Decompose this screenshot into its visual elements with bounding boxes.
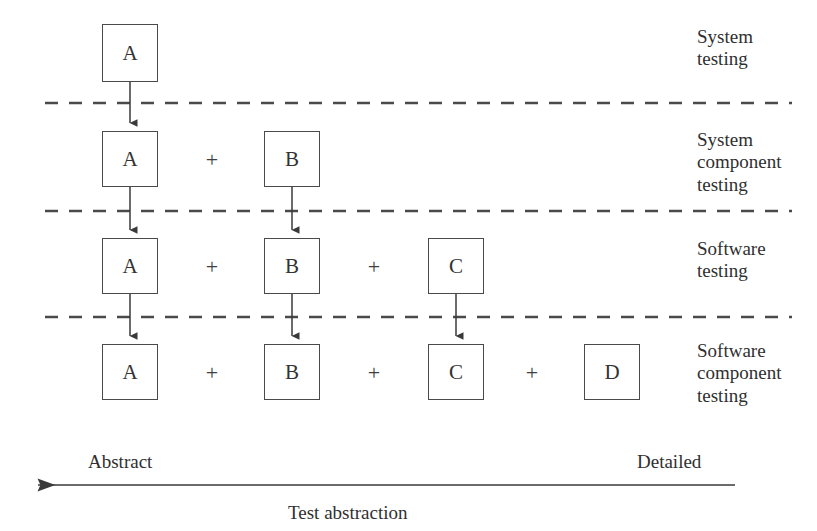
node-box-b-system-component-testing[interactable]: B (264, 131, 320, 187)
node-box-a-system-testing[interactable]: A (102, 24, 158, 82)
node-box-a-system-component-testing[interactable]: A (102, 131, 158, 187)
test-abstraction-diagram: A A + B A + B + C A + B + C + D System t… (0, 0, 817, 531)
node-box-label: B (285, 362, 299, 383)
node-box-label: C (449, 256, 463, 277)
node-box-a-software-component-testing[interactable]: A (102, 344, 158, 400)
axis-caption-test-abstraction: Test abstraction (288, 503, 408, 522)
tier-label-software-component-testing: Software component testing (697, 340, 781, 407)
node-box-b-software-component-testing[interactable]: B (264, 344, 320, 400)
tier-label-system-component-testing: System component testing (697, 129, 781, 196)
plus-sign-row4-2: + (362, 362, 386, 384)
tier-label-software-testing: Software testing (697, 238, 766, 283)
node-box-label: A (122, 362, 137, 383)
plus-sign-row3-1: + (200, 256, 224, 278)
node-box-c-software-component-testing[interactable]: C (428, 344, 484, 400)
plus-sign-row2-1: + (200, 149, 224, 171)
node-box-label: B (285, 256, 299, 277)
node-box-label: A (122, 256, 137, 277)
tier-label-system-testing: System testing (697, 26, 753, 71)
node-box-b-software-testing[interactable]: B (264, 238, 320, 294)
node-box-c-software-testing[interactable]: C (428, 238, 484, 294)
node-box-a-software-testing[interactable]: A (102, 238, 158, 294)
plus-sign-row3-2: + (362, 256, 386, 278)
node-box-label: C (449, 362, 463, 383)
plus-sign-row4-1: + (200, 362, 224, 384)
node-box-label: A (122, 149, 137, 170)
node-box-label: D (604, 362, 619, 383)
node-box-label: A (122, 43, 137, 64)
axis-label-detailed: Detailed (637, 452, 701, 471)
plus-sign-row4-3: + (520, 362, 544, 384)
node-box-d-software-component-testing[interactable]: D (584, 344, 640, 400)
axis-label-abstract: Abstract (88, 452, 152, 471)
node-box-label: B (285, 149, 299, 170)
